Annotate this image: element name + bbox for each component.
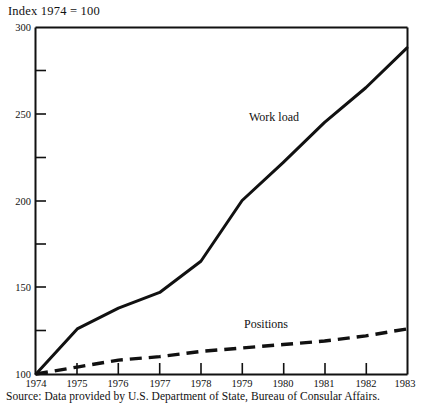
y-axis-ticks: [35, 71, 46, 331]
y-tick-label: 250: [15, 109, 31, 120]
y-tick-label: 300: [15, 22, 31, 33]
y-axis-tick-labels: 300 250 200 150 100: [0, 0, 31, 409]
source-note: Source: Data provided by U.S. Department…: [6, 390, 380, 402]
series-annotation-work-load: Work load: [249, 110, 299, 125]
x-tick-label: 1976: [108, 378, 129, 389]
x-tick-label: 1981: [314, 378, 335, 389]
plot-area: [0, 0, 424, 409]
x-tick-label: 1982: [356, 378, 377, 389]
series-line-work-load: [36, 48, 407, 374]
y-tick-label: 150: [15, 282, 31, 293]
x-tick-label: 1978: [191, 378, 212, 389]
x-tick-label: 1983: [395, 378, 416, 389]
chart-figure: Index 1974 = 100 300 250 200 150 100 197…: [0, 0, 424, 409]
x-tick-label: 1977: [150, 378, 171, 389]
series-annotation-positions: Positions: [244, 317, 288, 332]
series-line-positions: [36, 329, 407, 374]
x-tick-label: 1979: [232, 378, 253, 389]
x-tick-label: 1974: [26, 378, 47, 389]
x-tick-label: 1975: [67, 378, 88, 389]
x-tick-label: 1980: [273, 378, 294, 389]
x-axis-ticks: [77, 363, 366, 374]
y-tick-label: 200: [15, 196, 31, 207]
